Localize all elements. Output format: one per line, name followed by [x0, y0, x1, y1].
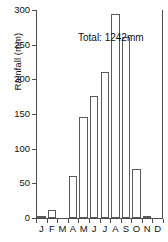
x-tick-label: D [152, 223, 164, 234]
bar-august [111, 14, 119, 218]
bar-may [79, 117, 87, 218]
bar-september [122, 37, 130, 218]
bar-july [101, 72, 109, 218]
y-tick-mark [32, 149, 36, 150]
right-frame-line [162, 10, 163, 219]
y-tick-label: 0 [4, 212, 30, 223]
y-tick-mark [32, 114, 36, 115]
y-tick-label: 100 [4, 143, 30, 154]
plot-area: 050100150200250300 JFMAMJJASOND Total: 1… [36, 10, 163, 219]
y-tick-mark [32, 45, 36, 46]
y-axis-line [36, 10, 37, 219]
y-tick-mark [32, 79, 36, 80]
bar-june [90, 96, 98, 218]
bar-october [132, 169, 140, 218]
bar-february [48, 210, 56, 218]
y-tick-mark [32, 183, 36, 184]
bar-january [37, 216, 45, 218]
rainfall-bar-chart: Rainfall (mm) 050100150200250300 JFMAMJJ… [0, 0, 168, 242]
y-axis-title: Rainfall (mm) [12, 7, 23, 117]
bar-november [143, 216, 151, 218]
y-tick-label: 250 [4, 39, 30, 50]
y-tick-label: 150 [4, 108, 30, 119]
y-tick-label: 50 [4, 177, 30, 188]
bar-april [69, 176, 77, 218]
total-annotation: Total: 1242mm [78, 32, 144, 43]
y-tick-label: 300 [4, 4, 30, 15]
y-tick-label: 200 [4, 73, 30, 84]
y-tick-mark [32, 10, 36, 11]
